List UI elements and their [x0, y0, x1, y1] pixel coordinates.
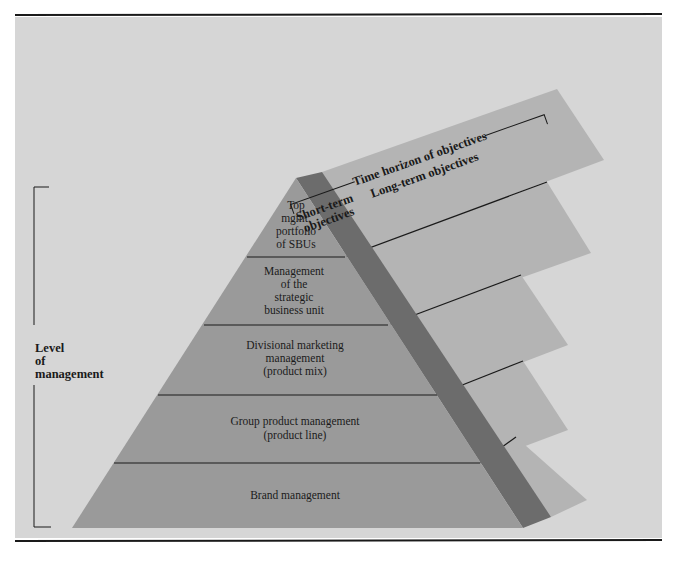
- layer-brand-label: Brand management: [250, 489, 341, 502]
- svg-text:of SBUs: of SBUs: [276, 238, 316, 250]
- svg-text:strategic: strategic: [275, 291, 314, 304]
- bottom-rule: [15, 540, 662, 541]
- svg-text:Level: Level: [35, 341, 65, 355]
- svg-text:management: management: [35, 367, 105, 381]
- svg-text:of the: of the: [281, 278, 308, 290]
- top-rule: [15, 14, 662, 15]
- svg-text:of: of: [35, 354, 46, 368]
- pyramid-diagram: Top mgmt. portfolio of SBUs Management o…: [0, 0, 680, 562]
- svg-text:Brand management: Brand management: [250, 489, 341, 502]
- svg-text:Management: Management: [264, 265, 325, 278]
- svg-text:Group product management: Group product management: [230, 415, 360, 428]
- svg-text:business unit: business unit: [264, 304, 325, 316]
- svg-text:(product line): (product line): [264, 429, 327, 442]
- svg-text:(product mix): (product mix): [263, 365, 327, 378]
- svg-text:management: management: [266, 352, 326, 365]
- svg-text:Divisional marketing: Divisional marketing: [246, 339, 344, 352]
